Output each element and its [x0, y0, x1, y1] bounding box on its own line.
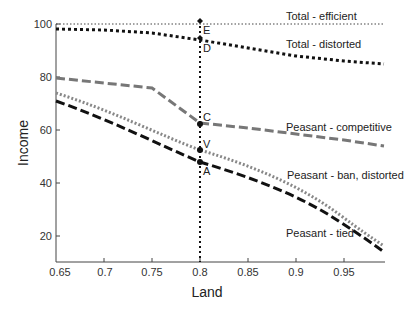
y-tick-20: 20	[40, 230, 52, 242]
label-peasant-ban-distorted: Peasant - ban, distorted	[287, 169, 404, 181]
income-land-chart: 20 40 60 80 100 0.65 0.7 0.75 0.8 0.85 0…	[0, 0, 411, 309]
x-tick-0.65: 0.65	[49, 266, 70, 278]
point-c-label: C	[203, 111, 211, 123]
x-tick-0.7: 0.7	[97, 266, 112, 278]
point-v-label: V	[203, 138, 211, 150]
y-axis-label: Income	[15, 120, 31, 166]
x-tick-0.8: 0.8	[192, 266, 207, 278]
x-tick-0.85: 0.85	[237, 266, 258, 278]
y-tick-100: 100	[34, 18, 52, 30]
label-peasant-tied: Peasant - tied	[286, 227, 354, 239]
y-tick-80: 80	[40, 71, 52, 83]
label-total-distorted: Total - distorted	[286, 38, 361, 50]
point-a-label: A	[203, 165, 211, 177]
x-tick-0.95: 0.95	[333, 266, 354, 278]
x-ticks: 0.65 0.7 0.75 0.8 0.85 0.9 0.95	[49, 258, 354, 278]
point-d-label: D	[203, 42, 211, 54]
x-tick-0.75: 0.75	[141, 266, 162, 278]
y-tick-40: 40	[40, 177, 52, 189]
label-peasant-competitive: Peasant - competitive	[286, 121, 392, 133]
y-tick-60: 60	[40, 124, 52, 136]
label-total-efficient: Total - efficient	[286, 10, 357, 22]
point-e-label: E	[203, 24, 210, 36]
x-tick-0.9: 0.9	[288, 266, 303, 278]
x-axis-label: Land	[191, 284, 222, 300]
